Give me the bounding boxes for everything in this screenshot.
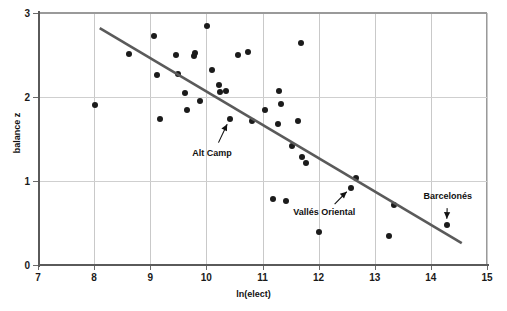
data-point bbox=[303, 160, 309, 166]
gridline-x-13 bbox=[375, 13, 376, 265]
data-point bbox=[175, 71, 181, 77]
scatter-chart: 7891011121314150123 Alt CampVallés Orien… bbox=[0, 0, 507, 311]
data-point bbox=[192, 50, 198, 56]
data-point bbox=[223, 88, 229, 94]
data-point bbox=[197, 98, 203, 104]
data-point bbox=[92, 102, 98, 108]
trendline bbox=[100, 28, 462, 243]
data-point bbox=[245, 49, 251, 55]
annotation-label: Vallés Oriental bbox=[293, 207, 355, 217]
data-point bbox=[270, 196, 276, 202]
data-point bbox=[184, 107, 190, 113]
data-point bbox=[182, 90, 188, 96]
y-axis-label: balance z bbox=[12, 88, 22, 178]
x-tick-label-9: 9 bbox=[147, 272, 153, 283]
gridline-x-11 bbox=[263, 13, 264, 265]
data-point bbox=[173, 52, 179, 58]
data-point bbox=[444, 222, 450, 228]
data-point bbox=[157, 116, 163, 122]
x-tick-label-15: 15 bbox=[481, 272, 492, 283]
gridline-x-12 bbox=[319, 13, 320, 265]
data-point bbox=[235, 52, 241, 58]
y-tick-label-0: 0 bbox=[18, 260, 30, 271]
data-point bbox=[216, 82, 222, 88]
data-point bbox=[299, 154, 305, 160]
x-tick-label-10: 10 bbox=[201, 272, 212, 283]
data-point bbox=[386, 233, 392, 239]
x-tick-label-11: 11 bbox=[257, 272, 268, 283]
x-tick-label-7: 7 bbox=[35, 272, 41, 283]
x-tick-label-14: 14 bbox=[425, 272, 436, 283]
data-point bbox=[298, 40, 304, 46]
x-axis-line bbox=[38, 264, 489, 266]
gridline-x-15 bbox=[487, 13, 488, 265]
x-tick-label-13: 13 bbox=[369, 272, 380, 283]
annotation-label: Barcelonés bbox=[423, 191, 472, 201]
y-axis-line bbox=[38, 11, 40, 267]
x-axis-label: ln(elect) bbox=[0, 289, 507, 299]
annotation-arrows bbox=[218, 124, 450, 219]
data-point bbox=[391, 202, 397, 208]
gridline-y-2 bbox=[38, 97, 487, 98]
gridline-x-14 bbox=[431, 13, 432, 265]
gridline-x-10 bbox=[206, 13, 207, 265]
y-tick-label-3: 3 bbox=[18, 8, 30, 19]
x-tick-label-8: 8 bbox=[91, 272, 97, 283]
data-point bbox=[262, 107, 268, 113]
data-point bbox=[316, 229, 322, 235]
x-tick-label-12: 12 bbox=[313, 272, 324, 283]
gridline-y-3 bbox=[38, 13, 487, 14]
data-point bbox=[348, 185, 354, 191]
data-point bbox=[295, 118, 301, 124]
data-point bbox=[289, 143, 295, 149]
data-point bbox=[227, 116, 233, 122]
data-point bbox=[209, 67, 215, 73]
data-point bbox=[126, 51, 132, 57]
annotation-label: Alt Camp bbox=[192, 148, 232, 158]
data-point bbox=[249, 118, 255, 124]
data-point bbox=[275, 121, 281, 127]
data-point bbox=[154, 72, 160, 78]
data-point bbox=[278, 101, 284, 107]
gridline-x-9 bbox=[150, 13, 151, 265]
data-point bbox=[204, 23, 210, 29]
data-point bbox=[276, 88, 282, 94]
gridline-x-8 bbox=[94, 13, 95, 265]
data-point bbox=[283, 198, 289, 204]
gridline-y-1 bbox=[38, 181, 487, 182]
data-point bbox=[353, 175, 359, 181]
data-point bbox=[151, 33, 157, 39]
